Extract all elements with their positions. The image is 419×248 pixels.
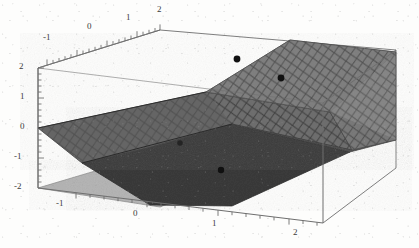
y-tick-label-0: 0 (87, 22, 92, 31)
y-tick-label-1: 1 (126, 13, 131, 22)
z-tick-label-2: 2 (19, 62, 24, 71)
data-point (234, 56, 241, 63)
y-tick-label-neg1: -1 (43, 33, 51, 42)
plot-canvas (0, 0, 419, 248)
z-tick-label-1: 1 (20, 92, 25, 101)
z-tick-label-neg2: -2 (14, 182, 22, 191)
data-point (218, 167, 224, 173)
z-tick-label-neg1: -1 (14, 152, 22, 161)
x-tick-label-1: 1 (212, 219, 217, 228)
x-tick-label-2: 2 (293, 228, 298, 237)
y-axis-ticks (47, 24, 160, 65)
data-point (177, 140, 183, 146)
y-tick-label-2: 2 (157, 5, 162, 14)
plot-root: -1 0 1 2 2 1 0 -1 -2 -1 0 1 2 (0, 0, 419, 248)
z-tick-label-0: 0 (20, 122, 25, 131)
y-axis-line (38, 30, 160, 68)
data-point (278, 75, 285, 82)
x-tick-label-0: 0 (133, 209, 138, 218)
x-tick-label-neg1: -1 (56, 199, 64, 208)
